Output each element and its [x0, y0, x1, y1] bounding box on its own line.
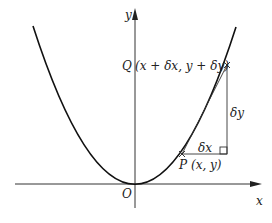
- y-axis: [132, 8, 138, 208]
- x-axis-label: x: [256, 194, 263, 208]
- point-p-coords: (x, y): [191, 158, 222, 172]
- point-q-coords: (x + δx, y + δy): [135, 59, 229, 73]
- point-p-name: P: [178, 158, 188, 172]
- y-axis-label: y: [124, 8, 132, 22]
- dx-label: δx: [198, 141, 212, 155]
- x-axis-arrow-icon: [250, 181, 262, 187]
- right-angle-marker: [220, 147, 227, 154]
- origin-label: O: [122, 187, 132, 201]
- dy-label: δy: [230, 106, 244, 120]
- point-q-name: Q: [122, 59, 132, 73]
- diagram-canvas: y x O Q (x + δx, y + δy) P (x, y) δx δy: [0, 0, 272, 223]
- y-axis-arrow-icon: [132, 8, 138, 20]
